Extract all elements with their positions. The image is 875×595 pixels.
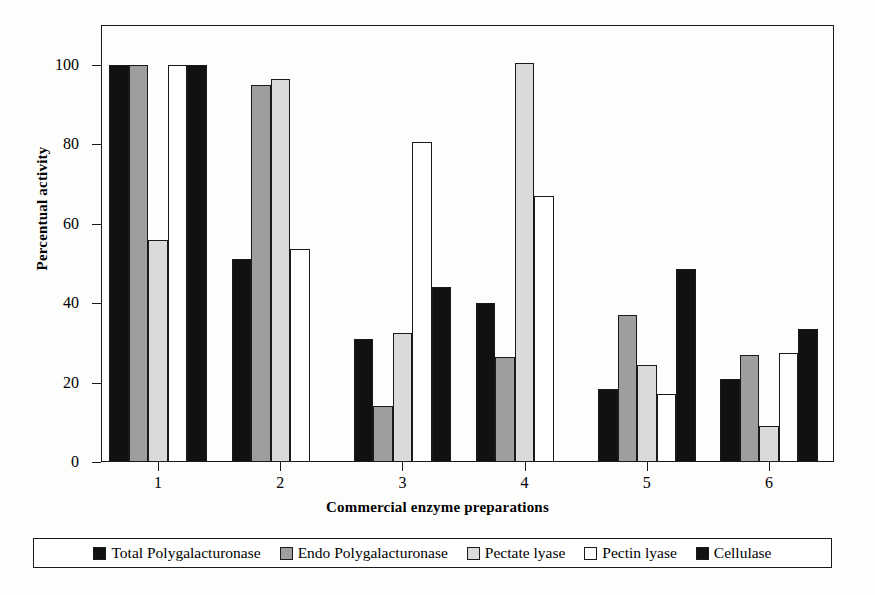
bar	[412, 142, 432, 462]
y-axis-tick	[92, 462, 101, 463]
bar	[393, 333, 413, 462]
legend-swatch-icon	[280, 547, 293, 560]
bar	[779, 353, 799, 462]
legend-swatch-icon	[93, 547, 106, 560]
bar	[657, 394, 677, 462]
y-axis-tick	[92, 383, 101, 384]
bar	[476, 303, 496, 462]
x-axis-tick-label: 1	[138, 475, 178, 491]
legend-swatch-icon	[584, 547, 597, 560]
bar	[618, 315, 638, 462]
y-axis-tick	[92, 65, 101, 66]
bar	[740, 355, 760, 462]
y-axis-tick	[92, 224, 101, 225]
chart-legend: Total PolygalacturonaseEndo Polygalactur…	[33, 538, 832, 568]
x-axis-tick	[402, 462, 403, 471]
y-axis-tick-label: 60	[19, 216, 79, 232]
bar	[515, 63, 535, 462]
x-axis-tick-label: 5	[627, 475, 667, 491]
bar	[495, 357, 515, 462]
bar	[637, 365, 657, 462]
y-axis-tick	[92, 144, 101, 145]
bar	[373, 406, 393, 462]
legend-label: Endo Polygalacturonase	[298, 545, 448, 561]
x-axis-tick-label: 6	[749, 475, 789, 491]
plot-area: 020406080100123456	[101, 25, 834, 462]
bar	[720, 379, 740, 462]
bar	[129, 65, 149, 462]
y-axis-tick-label: 0	[19, 454, 79, 470]
bar	[598, 389, 618, 462]
legend-swatch-icon	[467, 547, 480, 560]
legend-item[interactable]: Pectin lyase	[584, 545, 676, 561]
bar	[232, 259, 252, 462]
y-axis-tick-label: 40	[19, 295, 79, 311]
x-axis-tick-label: 3	[382, 475, 422, 491]
chart-page: Percentual activity 020406080100123456 C…	[0, 0, 875, 595]
y-axis-tick-label: 20	[19, 375, 79, 391]
legend-label: Pectate lyase	[485, 545, 565, 561]
bar	[148, 240, 168, 462]
x-axis-tick	[158, 462, 159, 471]
legend-swatch-icon	[696, 547, 709, 560]
bar	[354, 339, 374, 462]
legend-item[interactable]: Endo Polygalacturonase	[280, 545, 448, 561]
legend-item[interactable]: Total Polygalacturonase	[93, 545, 260, 561]
legend-label: Cellulase	[714, 545, 772, 561]
bar	[271, 79, 291, 462]
bar	[109, 65, 129, 462]
bar	[432, 287, 452, 462]
x-axis-tick	[647, 462, 648, 471]
bar	[168, 65, 188, 462]
bar	[290, 249, 310, 462]
y-axis-tick	[92, 303, 101, 304]
legend-label: Pectin lyase	[602, 545, 676, 561]
bar	[798, 329, 818, 462]
y-axis-tick-label: 80	[19, 136, 79, 152]
x-axis-tick	[769, 462, 770, 471]
x-axis-title: Commercial enzyme preparations	[0, 499, 875, 516]
legend-item[interactable]: Cellulase	[696, 545, 772, 561]
x-axis-tick	[525, 462, 526, 471]
legend-item[interactable]: Pectate lyase	[467, 545, 565, 561]
bar	[676, 269, 696, 462]
x-axis-tick-label: 4	[505, 475, 545, 491]
x-axis-tick-label: 2	[260, 475, 300, 491]
bar	[187, 65, 207, 462]
bar	[759, 426, 779, 462]
x-axis-tick	[280, 462, 281, 471]
legend-label: Total Polygalacturonase	[111, 545, 260, 561]
bar	[534, 196, 554, 462]
bar	[251, 85, 271, 462]
y-axis-tick-label: 100	[19, 57, 79, 73]
